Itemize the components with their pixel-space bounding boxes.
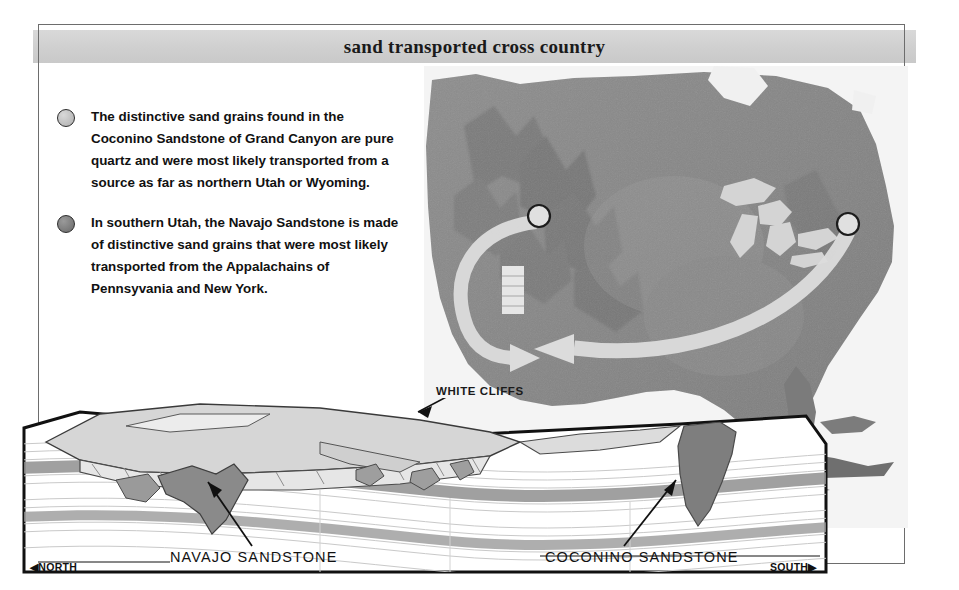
- appalachian-marker[interactable]: [837, 213, 859, 235]
- coconino-sandstone-label: COCONINO SANDSTONE: [545, 549, 739, 565]
- legend-item-coconino: The distinctive sand grains found in the…: [57, 106, 407, 194]
- northern-utah-wyoming-marker[interactable]: [528, 205, 550, 227]
- legend-item-text: The distinctive sand grains found in the…: [91, 106, 407, 194]
- white-cliffs-label: WHITE CLIFFS: [436, 385, 524, 397]
- light-circle-marker-icon: [57, 109, 75, 127]
- figure-root: sand transported cross country: [0, 0, 959, 590]
- arrow-right-icon: ▶: [808, 561, 816, 573]
- legend: The distinctive sand grains found in the…: [57, 106, 407, 318]
- direction-north: ◀NORTH: [30, 561, 77, 573]
- dark-circle-marker-icon: [57, 215, 75, 233]
- deposition-target-zone: [502, 266, 524, 314]
- plateau-surface: [46, 404, 520, 490]
- legend-item-text: In southern Utah, the Navajo Sandstone i…: [91, 212, 407, 300]
- direction-south: SOUTH▶: [770, 561, 817, 573]
- legend-item-navajo: In southern Utah, the Navajo Sandstone i…: [57, 212, 407, 300]
- navajo-sandstone-label: NAVAJO SANDSTONE: [170, 549, 337, 565]
- white-cliffs-leader: [418, 398, 452, 418]
